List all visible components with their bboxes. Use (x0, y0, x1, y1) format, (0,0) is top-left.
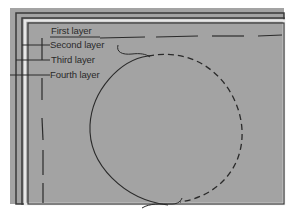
layers-diagram (0, 0, 294, 217)
label-second-layer: Second layer (50, 40, 104, 50)
label-third-layer: Third layer (51, 55, 95, 65)
diagram-canvas: First layer Second layer Third layer Fou… (0, 0, 294, 217)
label-fourth-layer: Fourth layer (50, 70, 100, 80)
label-first-layer: First layer (51, 26, 92, 36)
